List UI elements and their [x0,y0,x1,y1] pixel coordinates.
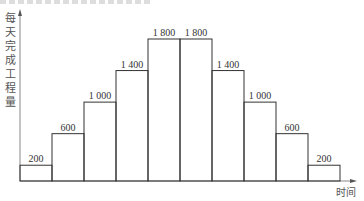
bar [52,134,84,181]
bar-value-label: 1 000 [249,90,272,101]
y-label-char: 完 [3,40,17,54]
y-axis-label: 每天完成工程量 [3,12,17,110]
bar [244,102,276,181]
bar [148,39,180,181]
bar [84,102,116,181]
bar-value-label: 1 800 [153,27,176,38]
bar-value-label: 200 [317,153,332,164]
y-label-char: 程 [3,82,17,96]
x-axis-arrow-icon [350,179,357,183]
bar [308,165,340,181]
bar [276,134,308,181]
y-label-char: 工 [3,68,17,82]
bar-value-label: 1 000 [89,90,112,101]
y-label-char: 成 [3,54,17,68]
y-axis-arrow-icon [18,9,22,16]
bar-value-label: 600 [285,122,300,133]
bar [212,71,244,181]
y-label-char: 量 [3,96,17,110]
bars-group: 2006001 0001 4001 8001 8001 4001 0006002… [20,27,340,181]
bar-value-label: 1 400 [121,59,144,70]
bar [20,165,52,181]
y-label-char: 天 [3,26,17,40]
y-label-char: 每 [3,12,17,26]
bar [180,39,212,181]
bar-chart: 2006001 0001 4001 8001 8001 4001 0006002… [0,0,364,201]
bar-value-label: 600 [61,122,76,133]
bar-value-label: 1 400 [217,59,240,70]
bar [116,71,148,181]
x-axis-label: 时间 [336,184,356,199]
bar-value-label: 200 [29,153,44,164]
bar-value-label: 1 800 [185,27,208,38]
